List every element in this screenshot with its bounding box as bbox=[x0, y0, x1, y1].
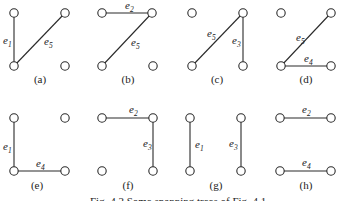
vertex-node bbox=[186, 167, 194, 175]
edge-e5 bbox=[102, 13, 152, 66]
vertex-node bbox=[10, 167, 18, 175]
edge-label: e5 bbox=[296, 31, 305, 46]
panel-c: e5e3(c) bbox=[188, 9, 247, 86]
vertex-node bbox=[148, 9, 156, 17]
panel-b: e2e5(b) bbox=[98, 0, 157, 86]
panel-label: (g) bbox=[210, 179, 223, 192]
edge-label: e1 bbox=[3, 34, 12, 49]
vertex-node bbox=[98, 167, 106, 175]
vertex-node bbox=[327, 9, 335, 17]
edge-e5 bbox=[14, 13, 65, 66]
spanning-trees-figure: e1e5(a)e2e5(b)e5e3(c)e5e4(d)e1e4(e)e2e3(… bbox=[0, 0, 341, 201]
panel-e: e1e4(e) bbox=[3, 114, 69, 192]
vertex-node bbox=[239, 62, 247, 70]
vertex-node bbox=[277, 9, 285, 17]
vertex-node bbox=[98, 9, 106, 17]
panel-f: e2e3(f) bbox=[98, 103, 157, 192]
vertex-node bbox=[10, 114, 18, 122]
vertex-node bbox=[188, 9, 196, 17]
panel-d: e5e4(d) bbox=[277, 9, 335, 86]
vertex-node bbox=[327, 62, 335, 70]
vertex-node bbox=[186, 114, 194, 122]
edge-label: e5 bbox=[207, 27, 216, 42]
vertex-node bbox=[98, 62, 106, 70]
panel-label: (e) bbox=[31, 179, 44, 192]
vertex-node bbox=[237, 167, 245, 175]
vertex-node bbox=[149, 62, 157, 70]
panels-group: e1e5(a)e2e5(b)e5e3(c)e5e4(d)e1e4(e)e2e3(… bbox=[3, 0, 335, 192]
vertex-node bbox=[276, 167, 284, 175]
vertex-node bbox=[276, 114, 284, 122]
edge-label: e3 bbox=[143, 137, 152, 152]
panel-g: e1e3(g) bbox=[186, 114, 245, 192]
edge-label: e4 bbox=[36, 157, 45, 172]
edge-label: e2 bbox=[125, 0, 134, 14]
edge-label: e2 bbox=[302, 103, 311, 118]
vertex-node bbox=[61, 62, 69, 70]
vertex-node bbox=[61, 9, 69, 17]
panel-a: e1e5(a) bbox=[3, 9, 69, 86]
panel-label: (a) bbox=[34, 73, 47, 86]
vertex-node bbox=[237, 114, 245, 122]
vertex-node bbox=[277, 62, 285, 70]
edge-label: e1 bbox=[195, 138, 204, 153]
panel-label: (b) bbox=[122, 73, 135, 86]
vertex-node bbox=[61, 167, 69, 175]
vertex-node bbox=[61, 114, 69, 122]
vertex-node bbox=[10, 62, 18, 70]
panel-label: (d) bbox=[300, 73, 313, 86]
edge-label: e3 bbox=[229, 137, 238, 152]
panel-h: e2e4(h) bbox=[276, 103, 335, 192]
vertex-node bbox=[10, 9, 18, 17]
vertex-node bbox=[327, 167, 335, 175]
edge-label: e4 bbox=[302, 156, 311, 171]
vertex-node bbox=[149, 114, 157, 122]
edge-label: e5 bbox=[44, 35, 53, 50]
edge-label: e1 bbox=[3, 140, 12, 155]
vertex-node bbox=[149, 167, 157, 175]
edge-label: e3 bbox=[232, 34, 241, 49]
vertex-node bbox=[188, 62, 196, 70]
vertex-node bbox=[327, 114, 335, 122]
edge-label: e2 bbox=[129, 103, 138, 118]
figure-caption: Fig. 4.2 Some spanning trees of Fig. 4.1 bbox=[90, 195, 266, 201]
edge-label: e4 bbox=[304, 52, 313, 67]
edge-label: e5 bbox=[131, 36, 140, 51]
panel-label: (c) bbox=[211, 73, 224, 86]
vertex-node bbox=[98, 114, 106, 122]
vertex-node bbox=[239, 9, 247, 17]
panel-label: (h) bbox=[300, 179, 313, 192]
panel-label: (f) bbox=[123, 179, 134, 192]
